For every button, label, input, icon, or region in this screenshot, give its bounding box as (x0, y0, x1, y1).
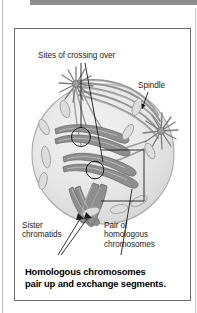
label-sister-chromatids: Sister chromatids (22, 221, 62, 240)
figure-box: Sites of crossing over Spindle Sister ch… (14, 28, 191, 301)
centrosome-right (158, 128, 165, 135)
figure-caption: Homologous chromosomes pair up and excha… (25, 266, 187, 289)
page-top-rule (30, 0, 197, 5)
page-left-rule (2, 0, 3, 313)
label-pair-of-homologous-chromosomes: Pair of homologous chromosomes (104, 221, 155, 249)
page-right-rule (195, 8, 196, 313)
label-spindle: Spindle (138, 81, 165, 90)
label-sites-of-crossing-over: Sites of crossing over (38, 51, 115, 60)
figure-page: Sites of crossing over Spindle Sister ch… (0, 0, 197, 313)
meiosis-cell-diagram (15, 29, 192, 302)
centrosome-top-left (73, 81, 80, 88)
leader-sister-chromatids-2 (61, 219, 87, 255)
